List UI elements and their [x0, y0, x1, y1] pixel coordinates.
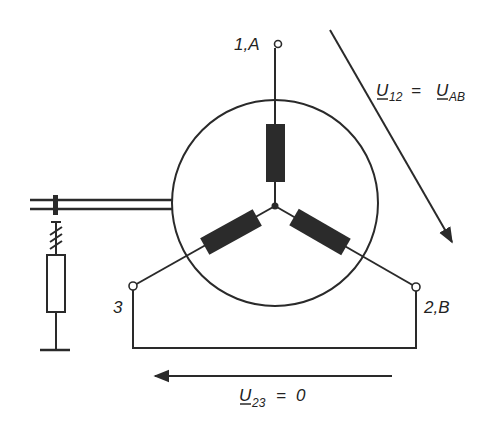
- terminal-3-node: [129, 282, 137, 290]
- u12-symbol: U: [376, 81, 389, 100]
- phase-3-winding: [129, 206, 275, 290]
- voltage-label-u23: U 23 = 0: [239, 386, 306, 410]
- u23-equals: =: [276, 386, 286, 405]
- ground-bus: [30, 195, 173, 215]
- voltage-arrow-u12: [330, 30, 452, 242]
- terminal-label-1A: 1,A: [234, 35, 260, 54]
- u23-symbol: U: [239, 386, 252, 405]
- u12-subscript: 12: [389, 90, 403, 104]
- phase-2-winding: [275, 206, 420, 291]
- winding-3: [200, 209, 262, 255]
- bridge-wire-3-to-2: [133, 290, 416, 348]
- terminal-label-2B: 2,B: [423, 298, 450, 317]
- uab-symbol: U: [436, 81, 449, 100]
- phase-1-winding: [266, 41, 285, 207]
- voltage-label-u12: U 12 = U AB: [376, 81, 465, 104]
- u23-value: 0: [296, 386, 306, 405]
- winding-2: [289, 209, 350, 255]
- u12-equals: =: [411, 81, 421, 100]
- terminal-label-3: 3: [113, 298, 123, 317]
- ground-resistor-branch: [40, 222, 70, 350]
- terminal-2-node: [412, 283, 420, 291]
- winding-1: [266, 124, 285, 182]
- uab-subscript: AB: [448, 90, 465, 104]
- u23-subscript: 23: [251, 396, 266, 410]
- terminal-1-node: [275, 41, 282, 48]
- star-connection-diagram: 1,A 2,B 3 U 12 = U AB U 23 = 0: [0, 0, 501, 431]
- grounding-resistor: [47, 255, 65, 312]
